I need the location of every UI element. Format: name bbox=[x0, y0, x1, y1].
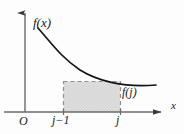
tick-label-j-minus-1: j−1 bbox=[52, 114, 69, 126]
integral-test-figure: f(x) f(j) O j−1 j x bbox=[0, 0, 184, 134]
function-curve bbox=[38, 28, 156, 86]
tick-label-j: j bbox=[116, 114, 119, 126]
shaded-rectangle bbox=[64, 82, 121, 113]
function-label: f(x) bbox=[33, 16, 51, 29]
height-label: f(j) bbox=[122, 86, 137, 98]
origin-label: O bbox=[19, 115, 28, 127]
x-axis-label: x bbox=[171, 100, 176, 111]
